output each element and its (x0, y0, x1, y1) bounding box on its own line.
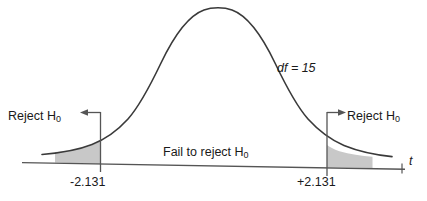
right-rejection-text: Reject H (347, 109, 395, 123)
left-rejection-label: Reject H0 (8, 110, 61, 124)
distribution-plot (0, 0, 427, 201)
right-critical-value-label: +2.131 (297, 176, 336, 189)
t-distribution-figure: Reject H0 Reject H0 Fail to reject H0 df… (0, 0, 427, 201)
right-rejection-subscript: 0 (395, 114, 400, 124)
x-axis-label: t (409, 155, 412, 168)
degrees-of-freedom-label: df = 15 (277, 62, 316, 75)
left-rejection-subscript: 0 (56, 114, 61, 124)
left-rejection-text: Reject H (8, 109, 56, 123)
fail-to-reject-subscript: 0 (244, 150, 249, 160)
t-distribution-curve (42, 8, 392, 157)
right-rejection-label: Reject H0 (347, 110, 400, 124)
right-arrowhead-icon (338, 109, 346, 116)
left-arrowhead-icon (80, 109, 88, 116)
fail-to-reject-label: Fail to reject H0 (163, 146, 249, 160)
fail-to-reject-text: Fail to reject H (163, 145, 244, 159)
left-critical-value-label: -2.131 (70, 176, 105, 189)
